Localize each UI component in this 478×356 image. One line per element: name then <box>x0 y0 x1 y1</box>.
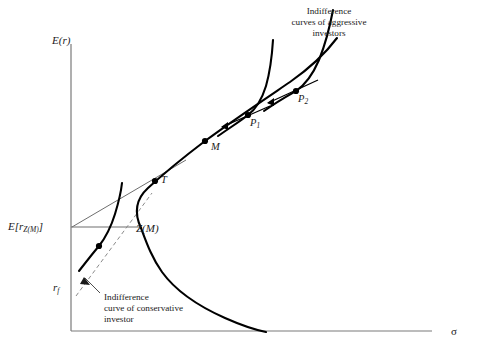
efficient-frontier-figure: E(r) σ E[rZ(M)] rf Z(M) T M P1 P2 Indiff… <box>0 0 478 356</box>
risk-free-rate-label-subscript: f <box>57 286 59 295</box>
zero-beta-return-label-main: E[r <box>8 220 23 232</box>
zero-beta-return-label-close: ] <box>39 220 43 232</box>
indifference-curve-aggressive-1 <box>218 40 273 136</box>
annotation-conservative-investor: Indifference curve of conservative inves… <box>104 292 234 326</box>
conservative-annotation-leader <box>85 278 100 293</box>
zero-beta-return-label-subscript: Z(M) <box>23 225 38 234</box>
point-marker-t <box>152 178 158 184</box>
point-label-t: T <box>161 174 167 186</box>
y-axis-label: E(r) <box>52 34 70 47</box>
point-markers <box>96 88 299 249</box>
point-marker-m <box>202 138 208 144</box>
figure-canvas <box>0 0 478 356</box>
axes-group <box>71 44 432 331</box>
point-label-p1-subscript: 1 <box>256 121 260 130</box>
point-label-m: M <box>211 141 220 153</box>
efficient-frontier-upper <box>137 38 337 228</box>
point-label-p2-subscript: 2 <box>304 97 308 106</box>
point-label-p2: P2 <box>298 93 308 106</box>
risk-free-rate-label: rf <box>53 281 59 296</box>
zero-beta-return-label: E[rZ(M)] <box>8 220 43 235</box>
x-axis-label: σ <box>451 325 457 338</box>
point-label-p1: P1 <box>250 117 260 130</box>
zero-beta-portfolio-label: Z(M) <box>136 222 159 235</box>
point-marker-conservative <box>96 243 102 249</box>
annotation-aggressive-investors: Indifference curves of aggressive invest… <box>274 6 384 40</box>
